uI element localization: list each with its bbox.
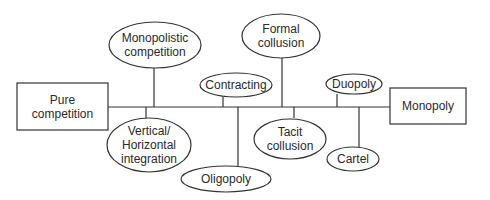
label-line: Vertical/ xyxy=(128,124,171,138)
monopoly-label: Monopoly xyxy=(390,88,466,124)
label-line: competition xyxy=(32,107,93,121)
formal-collusion-label: Formal collusion xyxy=(242,14,320,58)
label-line: collusion xyxy=(258,36,305,50)
duopoly-label: Duopoly xyxy=(326,74,382,94)
label-line: Tacit xyxy=(278,125,303,139)
vertical-horizontal-integration-label: Vertical/ Horizontal integration xyxy=(107,118,191,172)
oligopoly-label: Oligopoly xyxy=(181,166,271,192)
label-line: Monopolistic xyxy=(122,31,189,45)
cartel-label: Cartel xyxy=(327,147,379,171)
label-line: Duopoly xyxy=(332,77,376,91)
monopolistic-competition-label: Monopolistic competition xyxy=(109,22,201,68)
label-line: Horizontal xyxy=(122,138,176,152)
label-line: Oligopoly xyxy=(201,172,251,186)
label-line: Formal xyxy=(262,22,299,36)
tacit-collusion-label: Tacit collusion xyxy=(254,119,326,159)
label-line: Pure xyxy=(50,93,75,107)
label-line: integration xyxy=(121,152,177,166)
label-line: Contracting xyxy=(205,78,266,92)
label-line: collusion xyxy=(267,139,314,153)
label-line: Cartel xyxy=(337,152,369,166)
label-line: Monopoly xyxy=(402,99,454,113)
pure-competition-label: Pure competition xyxy=(17,83,108,130)
label-line: competition xyxy=(124,45,185,59)
contracting-label: Contracting xyxy=(200,73,272,97)
